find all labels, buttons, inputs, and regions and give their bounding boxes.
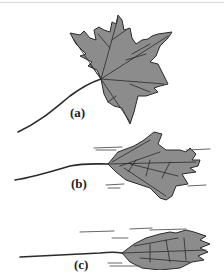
panel-label-a: (a): [70, 106, 85, 119]
leaf-a-drawing: [18, 15, 172, 132]
panel-label-c: (c): [74, 258, 88, 271]
leaf-c-drawing: [20, 228, 210, 270]
leaf-b-drawing: [15, 132, 210, 200]
panel-label-b: (b): [71, 177, 87, 190]
